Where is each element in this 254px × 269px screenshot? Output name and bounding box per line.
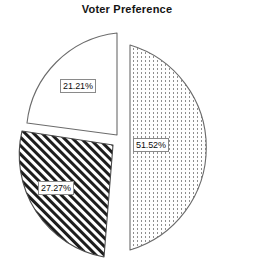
pie-slice-label-21-21: 21.21%	[60, 79, 96, 93]
pie-chart-figure: Voter Preference 21.21% 27.27% 51.52%	[0, 0, 254, 269]
pie-slice-label-51-52: 51.52%	[133, 138, 169, 152]
pie-chart-canvas	[0, 0, 254, 269]
pie-slice-label-27-27: 27.27%	[38, 181, 74, 195]
